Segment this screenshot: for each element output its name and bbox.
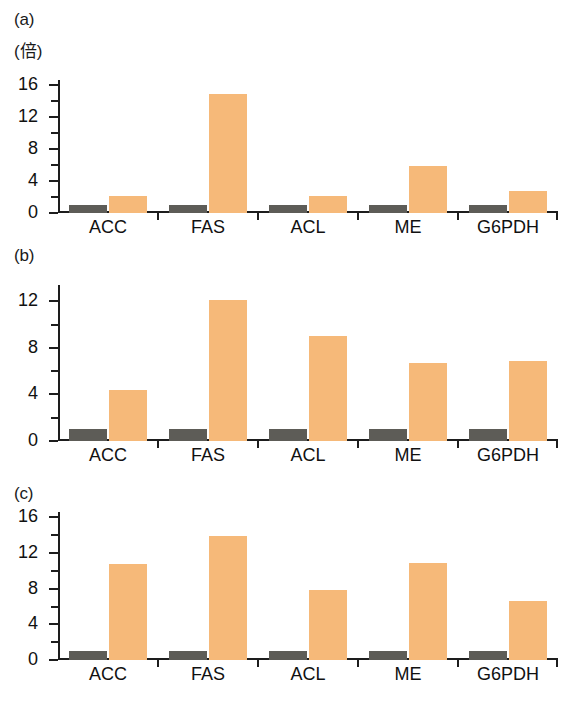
bar-fas-control (169, 429, 207, 441)
bar-acc-treatment (109, 564, 147, 660)
bar-g6pdh-treatment (509, 601, 547, 660)
panel-a-x-tick (457, 213, 459, 220)
bar-group-acl: ACL (258, 285, 358, 441)
bar-fas-control (169, 205, 207, 213)
bar-group-me: ME (358, 512, 458, 660)
panel-c-y-major-tick: 4 (49, 623, 58, 625)
figure-three-panel-bar-chart: (a) (倍) 0481216ACCFASACLMEG6PDH (b) 0481… (0, 0, 580, 716)
bar-g6pdh-treatment (509, 191, 547, 213)
panel-c-x-tick (357, 660, 359, 667)
panel-a-y-minor-tick (51, 164, 58, 166)
bar-g6pdh-control (469, 429, 507, 441)
bar-acc-treatment (109, 196, 147, 213)
panel-c-y-minor-tick (51, 534, 58, 536)
panel-b-label: (b) (14, 246, 34, 266)
bar-acc-treatment (109, 390, 147, 441)
panel-a-y-tick-label: 12 (18, 106, 38, 124)
panel-c-x-tick (157, 660, 159, 667)
panel-a-y-minor-tick (51, 132, 58, 134)
panel-a-y-tick-label: 4 (28, 171, 38, 189)
x-axis-label-acc: ACC (89, 218, 127, 236)
bar-group-acl: ACL (258, 80, 358, 213)
panel-b-y-major-tick: 12 (49, 300, 58, 302)
bar-acl-control (269, 429, 307, 441)
panel-c-y-major-tick: 12 (49, 552, 58, 554)
x-axis-label-acl: ACL (290, 446, 325, 464)
panel-a-y-major-tick: 0 (49, 212, 58, 214)
panel-b-y-minor-tick (51, 417, 58, 419)
x-axis-label-fas: FAS (191, 218, 225, 236)
panel-b-y-major-tick: 8 (49, 347, 58, 349)
bar-acc-control (69, 429, 107, 441)
bar-acl-treatment (309, 196, 347, 213)
bar-group-acc: ACC (58, 80, 158, 213)
panel-a-plot-area: 0481216ACCFASACLMEG6PDH (58, 80, 558, 213)
panel-b-y-minor-tick (51, 324, 58, 326)
bar-group-fas: FAS (158, 285, 258, 441)
bar-me-treatment (409, 563, 447, 660)
bar-group-acl: ACL (258, 512, 358, 660)
panel-c-y-major-tick: 16 (49, 516, 58, 518)
x-axis-label-acc: ACC (89, 446, 127, 464)
bar-group-me: ME (358, 285, 458, 441)
bar-group-g6pdh: G6PDH (458, 285, 558, 441)
x-axis-label-fas: FAS (191, 665, 225, 683)
bar-group-fas: FAS (158, 512, 258, 660)
bar-group-fas: FAS (158, 80, 258, 213)
x-axis-label-g6pdh: G6PDH (477, 446, 539, 464)
panel-c-x-tick (457, 660, 459, 667)
panel-b-y-major-tick: 0 (49, 440, 58, 442)
panel-b-x-tick (157, 441, 159, 448)
x-axis-label-g6pdh: G6PDH (477, 665, 539, 683)
x-axis-label-g6pdh: G6PDH (477, 218, 539, 236)
bar-me-control (369, 429, 407, 441)
bar-acc-control (69, 651, 107, 660)
bar-group-g6pdh: G6PDH (458, 80, 558, 213)
panel-a-y-tick-label: 0 (28, 203, 38, 221)
panel-a-y-tick-label: 8 (28, 139, 38, 157)
panel-b-y-tick-label: 8 (28, 338, 38, 356)
panel-a-x-tick (257, 213, 259, 220)
bar-fas-treatment (209, 536, 247, 660)
x-axis-label-fas: FAS (191, 446, 225, 464)
panel-c-y-tick-label: 8 (28, 578, 38, 596)
bar-acl-treatment (309, 590, 347, 660)
panel-b-plot-area: 04812ACCFASACLMEG6PDH (58, 285, 558, 441)
panel-c-plot-area: 0481216ACCFASACLMEG6PDH (58, 512, 558, 660)
panel-b-y-tick-label: 12 (18, 291, 38, 309)
x-axis-label-acc: ACC (89, 665, 127, 683)
panel-a-y-tick-label: 16 (18, 74, 38, 92)
panel-b-y-tick-label: 0 (28, 431, 38, 449)
panel-a-y-major-tick: 12 (49, 116, 58, 118)
panel-a-x-tick (157, 213, 159, 220)
panel-a: (a) (倍) 0481216ACCFASACLMEG6PDH (0, 0, 580, 242)
panel-a-x-tick (357, 213, 359, 220)
panel-c-y-major-tick: 0 (49, 659, 58, 661)
bar-me-control (369, 651, 407, 660)
panel-c-x-tick-end (556, 660, 558, 667)
panel-a-y-major-tick: 4 (49, 180, 58, 182)
bar-g6pdh-treatment (509, 361, 547, 441)
bar-group-acc: ACC (58, 285, 158, 441)
x-axis-label-me: ME (395, 665, 422, 683)
bar-acl-treatment (309, 336, 347, 441)
bar-me-treatment (409, 166, 447, 213)
panel-a-y-major-tick: 8 (49, 148, 58, 150)
panel-c-y-major-tick: 8 (49, 588, 58, 590)
bar-group-acc: ACC (58, 512, 158, 660)
panel-c-y-tick-label: 16 (18, 507, 38, 525)
panel-c-y-tick-label: 4 (28, 614, 38, 632)
panel-a-x-tick-end (556, 213, 558, 220)
panel-a-y-minor-tick (51, 196, 58, 198)
panel-c-y-tick-label: 12 (18, 543, 38, 561)
panel-b-x-tick (357, 441, 359, 448)
bar-g6pdh-control (469, 651, 507, 660)
panel-a-label: (a) (14, 10, 34, 30)
bar-g6pdh-control (469, 205, 507, 213)
panel-b-y-tick-label: 4 (28, 384, 38, 402)
panel-b-x-tick (257, 441, 259, 448)
bar-me-treatment (409, 363, 447, 441)
panel-c-y-tick-label: 0 (28, 650, 38, 668)
x-axis-label-acl: ACL (290, 218, 325, 236)
panel-a-unit-label: (倍) (14, 37, 42, 62)
